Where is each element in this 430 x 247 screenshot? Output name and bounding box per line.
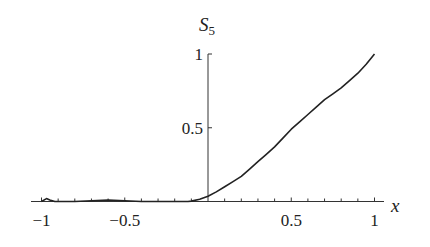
y-tick-label: 1 (195, 45, 204, 64)
line-chart: −1−0.50.51 0.51 x S5 (0, 0, 430, 247)
y-tick-label: 0.5 (182, 119, 203, 138)
x-tick-label: 0.5 (281, 211, 302, 230)
y-axis-label: S5 (199, 14, 215, 38)
x-tick-label: 1 (370, 211, 379, 230)
x-tick-label: −0.5 (109, 211, 140, 230)
y-axis-label-main: S (199, 14, 209, 35)
y-axis: 0.51 (182, 45, 212, 202)
x-axis: −1−0.50.51 (31, 198, 384, 231)
x-tick-label: −1 (32, 211, 50, 230)
y-axis-label-subscript: 5 (209, 23, 216, 38)
x-axis-label: x (390, 195, 400, 216)
